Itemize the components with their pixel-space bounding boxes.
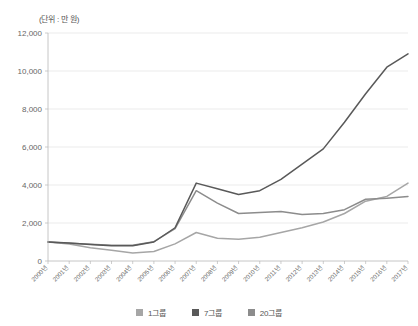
x-tick-label: 2006년: [157, 264, 176, 283]
gridlines: [48, 33, 408, 223]
x-tick-label: 2007년: [178, 264, 197, 283]
legend-label: 20그룹: [260, 307, 282, 318]
series-line-20그룹: [48, 191, 408, 246]
y-tick-label: 10,000: [18, 67, 43, 76]
legend-item[interactable]: 1그룹: [136, 307, 166, 318]
legend-swatch-icon: [248, 309, 255, 316]
legend-swatch-icon: [192, 309, 199, 316]
y-tick-label: 2,000: [22, 219, 43, 228]
x-tick-label: 2015년: [347, 264, 366, 283]
x-tick-label: 2009년: [220, 264, 239, 283]
legend-swatch-icon: [136, 309, 143, 316]
chart-legend: 1그룹7그룹20그룹: [0, 307, 418, 318]
legend-item[interactable]: 7그룹: [192, 307, 222, 318]
x-tick-label: 2002년: [72, 264, 91, 283]
x-tick-label: 2012년: [284, 264, 303, 283]
x-tick-label: 2005년: [136, 264, 155, 283]
line-chart: (단위 : 만 원) 02,0004,0006,0008,00010,00012…: [0, 0, 418, 326]
plot-area: 02,0004,0006,0008,00010,00012,000 2000년2…: [0, 0, 418, 326]
x-tick-label: 2011년: [263, 264, 282, 283]
y-tick-label: 6,000: [22, 143, 43, 152]
legend-label: 1그룹: [148, 307, 166, 318]
x-tick-label: 2017년: [390, 264, 409, 283]
x-tick-label: 2010년: [242, 264, 261, 283]
x-tick-label: 2014년: [326, 264, 345, 283]
x-tick-label: 2013년: [305, 264, 324, 283]
x-axis-ticks: 2000년2001년2002년2003년2004년2005년2006년2007년…: [30, 261, 409, 283]
legend-label: 7그룹: [204, 307, 222, 318]
x-tick-label: 2004년: [114, 264, 133, 283]
x-tick-label: 2003년: [93, 264, 112, 283]
y-tick-label: 8,000: [22, 105, 43, 114]
y-tick-label: 12,000: [18, 29, 43, 38]
series-line-7그룹: [48, 54, 408, 246]
x-tick-label: 2000년: [30, 264, 49, 283]
legend-item[interactable]: 20그룹: [248, 307, 282, 318]
x-tick-label: 2016년: [369, 264, 388, 283]
x-tick-label: 2008년: [199, 264, 218, 283]
y-axis-ticks: 02,0004,0006,0008,00010,00012,000: [18, 29, 48, 266]
x-tick-label: 2001년: [51, 264, 70, 283]
series-line-1그룹: [48, 183, 408, 253]
y-tick-label: 4,000: [22, 181, 43, 190]
